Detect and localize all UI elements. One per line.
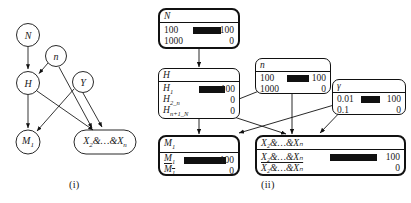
table-row: 100 100 — [164, 25, 234, 36]
panel-i-label-H: H — [24, 78, 31, 89]
row-bar — [330, 154, 377, 161]
edge-H-X — [37, 91, 93, 130]
caption-panel-i: (i) — [69, 179, 80, 190]
table-row: 1000 0 — [164, 36, 234, 47]
node-M1-rows: M1 100 M1 0 — [160, 155, 238, 177]
table-row: 1000 0 — [260, 84, 326, 95]
row-value: 100 — [386, 152, 400, 163]
row-value: 0 — [321, 84, 326, 95]
row-bar — [361, 96, 380, 103]
row-value: 100 — [220, 155, 234, 166]
node-n[interactable]: n 100 100 1000 0 — [255, 58, 331, 94]
node-X-rows: X₂&…&Xₙ 100 X₂&…&Xₙ 0 — [257, 152, 404, 174]
row-value: 0 — [230, 95, 235, 106]
row-value: 100 — [312, 73, 326, 84]
row-value: 0 — [229, 36, 234, 47]
row-state-label: Hn+1_N — [163, 105, 188, 119]
table-row: M1 0 — [164, 166, 234, 177]
row-value: 100 — [221, 84, 235, 95]
row-state-label: 0.1 — [337, 105, 349, 116]
row-bar — [193, 27, 221, 34]
edge-n-H — [39, 63, 48, 74]
row-state-label: 100 — [164, 25, 178, 36]
table-row: 100 100 — [260, 73, 326, 84]
node-N-title: N — [160, 10, 238, 23]
panel-i-label-M1: M1 — [22, 135, 34, 149]
node-H[interactable]: H H1 100 H2_n 0 Hn+1_N 0 — [158, 68, 240, 119]
table-row: X₂&…&Xₙ 0 — [261, 163, 400, 174]
row-value: 0 — [395, 163, 400, 174]
panel-i-label-Y: Y — [80, 77, 86, 88]
table-row: 0.1 0 — [337, 105, 401, 116]
row-value: 100 — [387, 94, 401, 105]
row-value: 0 — [396, 105, 401, 116]
row-state-label: X₂&…&Xₙ — [261, 152, 303, 163]
panel-i-label-n: n — [54, 51, 59, 62]
table-row: Hn+1_N 0 — [163, 106, 235, 117]
row-state-label: 0.01 — [337, 94, 354, 105]
row-value: 0 — [230, 106, 235, 117]
row-bar — [287, 75, 309, 82]
table-row: 0.01 100 — [337, 94, 401, 105]
node-n-title: n — [256, 59, 330, 72]
node-N-rows: 100 100 1000 0 — [160, 25, 238, 47]
row-value: 100 — [220, 25, 234, 36]
figure-canvas: N n H Y M1 X2&…&Xn N 100 100 1000 0 H H1… — [0, 0, 411, 203]
row-state-label-negated: X₂&…&Xₙ — [261, 163, 303, 174]
caption-panel-ii: (ii) — [261, 179, 275, 190]
row-state-label-negated: M1 — [164, 164, 175, 178]
node-H-title: H — [159, 69, 239, 82]
edge-Y-X — [83, 93, 102, 127]
row-value: 0 — [229, 166, 234, 177]
node-gamma[interactable]: γ 0.01 100 0.1 0 — [332, 79, 406, 115]
node-N[interactable]: N 100 100 1000 0 — [158, 8, 240, 49]
arrow-H-to-X — [234, 117, 286, 134]
panel-i-label-N: N — [25, 30, 32, 41]
node-M1[interactable]: M1 M1 100 M1 0 — [158, 135, 240, 176]
arrow-gamma-to-M1 — [239, 105, 334, 133]
node-M1-title: M1 — [160, 137, 238, 153]
node-X[interactable]: X₂&…&Xₙ X₂&…&Xₙ 100 X₂&…&Xₙ 0 — [255, 135, 406, 176]
node-H-rows: H1 100 H2_n 0 Hn+1_N 0 — [159, 84, 239, 117]
panel-i-label-X2andXn: X2&…&Xn — [83, 135, 127, 149]
node-n-rows: 100 100 1000 0 — [256, 73, 330, 95]
row-state-label: 1000 — [164, 36, 183, 47]
node-gamma-title: γ — [333, 80, 405, 93]
row-state-label: 1000 — [260, 84, 279, 95]
node-gamma-rows: 0.01 100 0.1 0 — [333, 94, 405, 116]
table-row: X₂&…&Xₙ 100 — [261, 152, 400, 163]
node-X-title: X₂&…&Xₙ — [257, 137, 404, 150]
row-state-label: 100 — [260, 73, 274, 84]
